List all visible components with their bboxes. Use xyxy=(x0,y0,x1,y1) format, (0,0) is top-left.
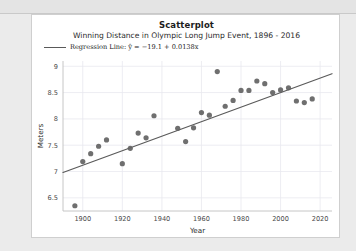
chart-card: Scatterplot Winning Distance in Olympic … xyxy=(31,14,340,238)
data-points xyxy=(72,69,315,208)
scatterplot-svg: 6.577.588.59 190019201940196019802000202… xyxy=(32,15,341,239)
svg-text:Year: Year xyxy=(189,226,205,235)
regression-line xyxy=(63,74,332,173)
svg-text:2000: 2000 xyxy=(272,215,289,223)
svg-text:7: 7 xyxy=(54,168,58,176)
svg-text:7.5: 7.5 xyxy=(48,142,59,150)
x-axis-ticks: 1900192019401960198020002020 xyxy=(74,215,328,223)
page-top-band xyxy=(0,0,356,14)
axis-frame xyxy=(63,61,332,211)
screenshot-root: Scatterplot Winning Distance in Olympic … xyxy=(0,0,356,251)
svg-text:1980: 1980 xyxy=(233,215,250,223)
svg-text:6.5: 6.5 xyxy=(48,194,59,202)
svg-text:8.5: 8.5 xyxy=(48,89,59,97)
svg-text:9: 9 xyxy=(54,63,58,71)
svg-text:Meters: Meters xyxy=(36,123,45,148)
svg-text:8: 8 xyxy=(54,115,58,123)
grid-lines xyxy=(63,61,332,211)
svg-text:1940: 1940 xyxy=(154,215,171,223)
svg-text:1900: 1900 xyxy=(74,215,91,223)
y-axis-ticks: 6.577.588.59 xyxy=(48,63,59,203)
svg-text:1960: 1960 xyxy=(193,215,210,223)
svg-text:2020: 2020 xyxy=(312,215,329,223)
svg-text:1920: 1920 xyxy=(114,215,131,223)
plot-area: 6.577.588.59 190019201940196019802000202… xyxy=(32,15,341,239)
